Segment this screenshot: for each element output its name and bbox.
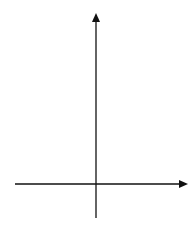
y-axis-arrow-icon [92, 13, 100, 22]
x-axis-arrow-icon [179, 180, 188, 188]
axes [15, 13, 188, 218]
coordinate-plane [0, 0, 193, 235]
